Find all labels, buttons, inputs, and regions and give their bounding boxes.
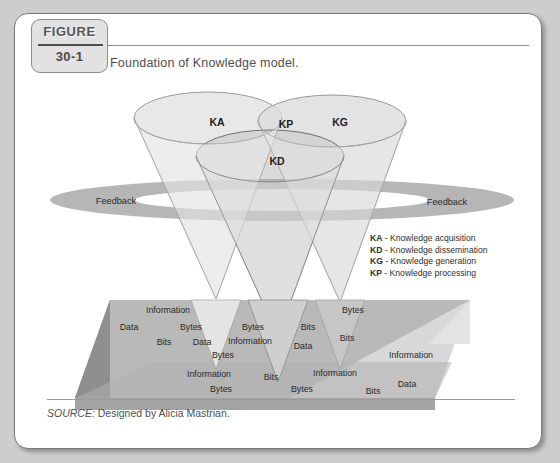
cone-label-kp: KP [279,118,294,130]
cone-label-ka: KA [209,116,225,128]
base-word: Data [398,379,417,389]
source-line: SOURCE: Designed by Alicia Mastrian. [47,407,230,419]
legend-code-kp: KP [370,268,382,278]
legend-sep: - [382,233,390,243]
legend-item-kg: KG - Knowledge generation [370,256,488,268]
figure-number: 30-1 [32,49,107,64]
base-word: Bits [366,386,381,396]
legend-text-kd: Knowledge dissemination [390,245,487,255]
legend-sep: - [383,256,391,266]
legend-sep: - [382,245,390,255]
base-word: Bytes [212,350,235,360]
page-background: KA KP KG KD Feedback Feedback Informatio… [0,0,560,463]
base-word: Information [228,336,272,346]
base-word: Information [187,369,231,379]
cone-label-kg: KG [332,116,348,128]
source-label: SOURCE: [47,407,95,419]
legend-code-kg: KG [370,256,383,266]
legend-item-ka: KA - Knowledge acquisition [370,233,488,245]
legend-text-kg: Knowledge generation [391,256,477,266]
feedback-label-right: Feedback [427,197,468,207]
figure-tab: FIGURE 30-1 [31,19,108,73]
source-divider [47,399,515,400]
base-word: Bytes [342,305,365,315]
base-word: Bytes [210,384,233,394]
base-word: Data [294,341,313,351]
base-word: Bits [340,333,355,343]
legend-code-ka: KA [370,233,382,243]
base-word: Information [146,305,190,315]
base-word: Information [313,368,357,378]
base-word: Bits [157,337,172,347]
feedback-label-left: Feedback [96,196,137,206]
figure-caption: Foundation of Knowledge model. [110,56,299,70]
legend-text-ka: Knowledge acquisition [390,233,476,243]
caption-divider [93,45,529,46]
legend-item-kd: KD - Knowledge dissemination [370,245,488,257]
cone-label-kd: KD [269,155,285,167]
legend-sep: - [382,268,390,278]
legend-code-kd: KD [370,245,382,255]
legend-item-kp: KP - Knowledge processing [370,268,488,280]
figure-tab-divider [38,44,103,46]
base-word: Bytes [242,322,265,332]
base-word: Bytes [291,384,314,394]
figure-card: KA KP KG KD Feedback Feedback Informatio… [14,13,542,449]
source-text: Designed by Alicia Mastrian. [98,407,230,419]
legend-text-kp: Knowledge processing [390,268,476,278]
foundation-of-knowledge-diagram: KA KP KG KD Feedback Feedback Informatio… [15,14,542,449]
figure-tab-label: FIGURE [32,24,107,39]
base-word: Data [193,337,212,347]
base-word: Bytes [180,322,203,332]
base-word: Bits [301,322,316,332]
base-word: Information [389,350,433,360]
base-word: Data [120,322,139,332]
legend: KA - Knowledge acquisition KD - Knowledg… [370,233,488,279]
base-word: Bits [264,372,279,382]
